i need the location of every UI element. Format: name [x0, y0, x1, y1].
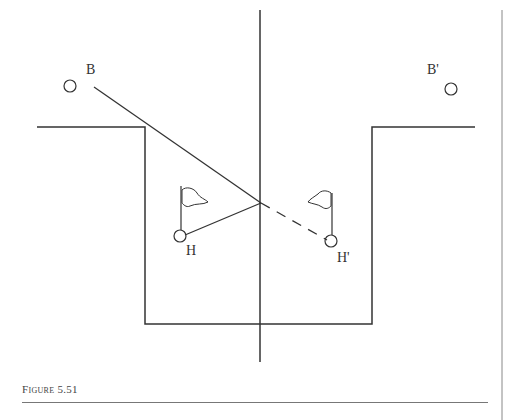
flag-icon — [182, 188, 208, 207]
hole-image-icon — [325, 235, 337, 247]
flag-image-icon — [308, 191, 331, 209]
mini-golf-reflection-diagram: B B' H H' — [0, 0, 511, 420]
ball-path — [94, 87, 261, 203]
course-boundary — [37, 127, 475, 324]
label-hole: H — [186, 243, 196, 258]
label-ball-image: B' — [427, 62, 439, 77]
hole-icon — [174, 230, 186, 242]
figure-caption: Figure 5.51 — [22, 383, 78, 395]
ball-image-icon — [445, 83, 457, 95]
caption-rule — [22, 402, 488, 403]
reflected-path — [185, 203, 261, 235]
image-path — [261, 203, 327, 240]
ball-icon — [64, 80, 76, 92]
label-hole-image: H' — [337, 250, 350, 265]
label-ball: B — [86, 62, 95, 77]
